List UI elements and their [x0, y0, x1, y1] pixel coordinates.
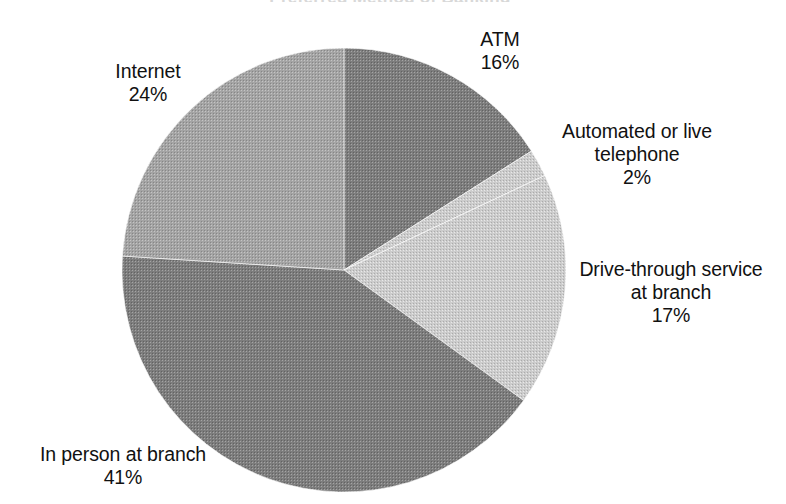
- slice-label-drive-through: Drive-through service at branch 17%: [556, 258, 786, 327]
- pie-chart-figure: Preferred Method of Banking: [0, 0, 786, 504]
- slice-label-in-person: In person at branch 41%: [8, 443, 238, 489]
- slice-label-internet: Internet 24%: [88, 60, 208, 106]
- slice-label-telephone: Automated or live telephone 2%: [512, 120, 762, 189]
- pie-slices: [122, 48, 566, 492]
- slice-label-atm: ATM 16%: [440, 28, 560, 74]
